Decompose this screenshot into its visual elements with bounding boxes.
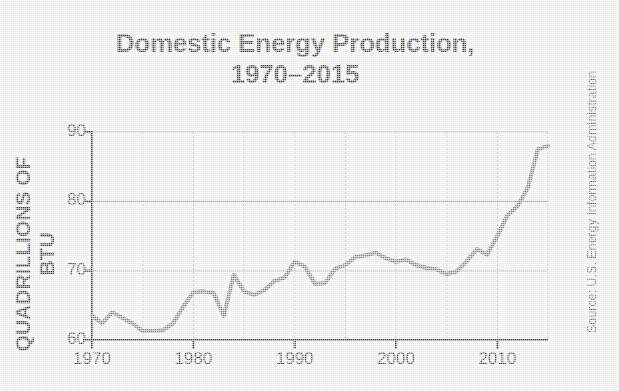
page-title: Domestic Energy Production, 1970–2015 xyxy=(40,28,550,90)
data-series-line xyxy=(92,146,548,331)
title-line-1: Domestic Energy Production, xyxy=(40,28,550,59)
x-tick-label-1990: 1990 xyxy=(260,349,330,369)
title-line-2: 1970–2015 xyxy=(40,59,550,90)
y-tick-label-80: 80 xyxy=(46,190,86,210)
x-tick-label-2000: 2000 xyxy=(361,349,431,369)
chart-figure: Domestic Energy Production, 1970–2015 QU… xyxy=(0,0,619,391)
x-tick-label-1970: 1970 xyxy=(57,349,127,369)
x-tick-label-2010: 2010 xyxy=(462,349,532,369)
source-credit: Source: U.S. Energy Information Administ… xyxy=(585,17,599,387)
x-tick-label-1980: 1980 xyxy=(158,349,228,369)
y-tick-label-70: 70 xyxy=(46,260,86,280)
axis-lines xyxy=(83,131,548,349)
line-chart-svg xyxy=(92,132,548,340)
axis-tick-marks xyxy=(84,132,497,349)
x-axis-tick-labels: 19701980199020002010 xyxy=(0,349,619,379)
y-tick-label-60: 60 xyxy=(46,329,86,349)
y-axis-tick-labels: 60708090 xyxy=(42,0,86,391)
y-tick-label-90: 90 xyxy=(46,121,86,141)
vertical-gridlines xyxy=(143,132,548,340)
plot-area xyxy=(92,132,548,340)
